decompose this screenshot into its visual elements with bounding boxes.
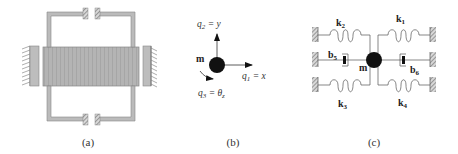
k3-label: k3 xyxy=(338,98,348,111)
wall-left-mid-icon xyxy=(312,52,318,67)
k1-label: k1 xyxy=(396,13,406,26)
figure-canvas: (a) m q2 = y q1 = x q3 = θz (b) xyxy=(0,0,458,154)
spring-k4-icon xyxy=(378,80,430,92)
right-ground-icon xyxy=(143,46,157,87)
mass-label-c: m xyxy=(359,62,368,73)
k4-label: k4 xyxy=(398,97,408,110)
bottom-right-clamp-icon xyxy=(95,114,100,125)
left-ground-icon xyxy=(22,46,39,86)
caption-a: (a) xyxy=(82,136,95,149)
bottom-left-clamp-icon xyxy=(83,114,88,125)
wall-right-top-icon xyxy=(430,27,436,42)
q1-label: q1 = x xyxy=(242,71,266,83)
caption-c: (c) xyxy=(368,136,381,149)
rotation-arrow-icon xyxy=(200,71,213,79)
q2-label: q2 = y xyxy=(197,19,221,31)
mass-point xyxy=(209,57,225,73)
wall-right-mid-icon xyxy=(430,52,436,67)
wall-left-bot-icon xyxy=(312,77,318,92)
spring-k3-icon xyxy=(318,80,370,92)
central-beam xyxy=(43,47,139,86)
wall-right-bot-icon xyxy=(430,77,436,92)
wall-left-top-icon xyxy=(312,27,318,42)
mass-point-c xyxy=(366,52,382,68)
panel-a-structure xyxy=(22,8,157,125)
caption-b: (b) xyxy=(227,136,240,149)
top-frame xyxy=(47,12,84,47)
spring-k2-icon xyxy=(318,30,370,42)
b6-label: b6 xyxy=(410,64,420,77)
q3-label: q3 = θz xyxy=(198,88,225,100)
top-right-clamp-icon xyxy=(95,8,100,19)
spring-k1-icon xyxy=(378,30,430,42)
top-left-clamp-icon xyxy=(83,8,88,19)
bottom-frame xyxy=(47,86,84,121)
mass-label-b: m xyxy=(196,53,205,64)
k2-label: k2 xyxy=(336,17,346,30)
